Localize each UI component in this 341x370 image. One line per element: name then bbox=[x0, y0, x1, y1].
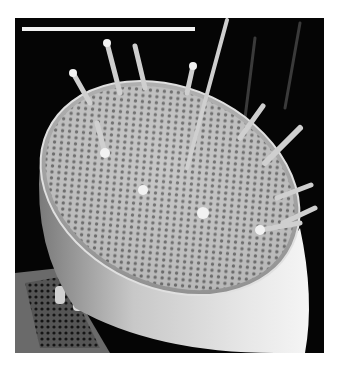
sem-micrograph bbox=[15, 18, 324, 353]
scale-bar bbox=[22, 27, 195, 31]
diatom-illustration bbox=[15, 18, 324, 353]
background-spines bbox=[245, 23, 300, 118]
figure-caption bbox=[14, 362, 334, 370]
